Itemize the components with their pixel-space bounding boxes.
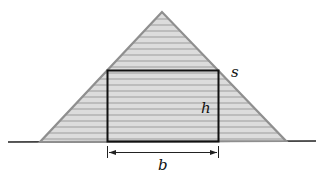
label-h: h [201, 99, 211, 117]
label-s: s [231, 63, 239, 81]
diagram-canvas: s h b [0, 0, 321, 181]
triangle-rectangle-diagram: s h b [0, 0, 321, 181]
triangle [40, 12, 286, 142]
label-b: b [158, 156, 168, 174]
